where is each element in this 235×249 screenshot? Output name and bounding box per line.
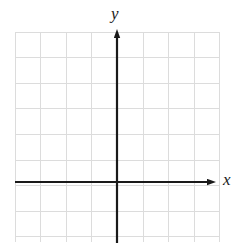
x-axis-label: x [223,171,231,188]
coordinate-plane-canvas [0,0,235,249]
y-axis-label: y [111,5,119,22]
coordinate-plane-figure: x y [0,0,235,249]
